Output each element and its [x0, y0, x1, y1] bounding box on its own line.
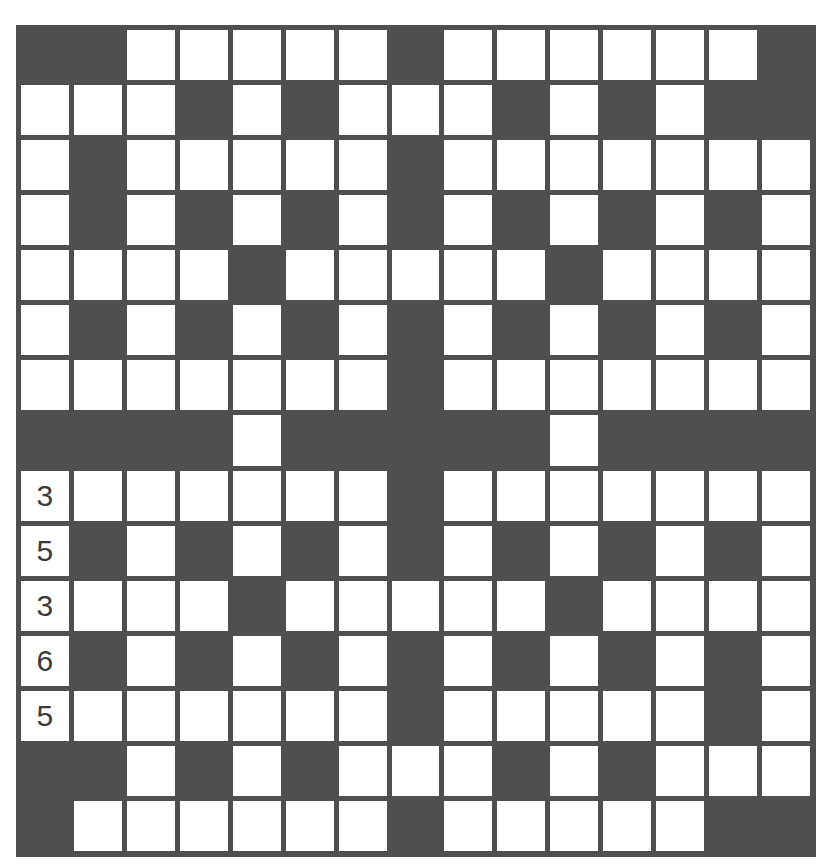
grid-cell[interactable] [125, 248, 178, 303]
grid-cell[interactable] [760, 524, 813, 579]
grid-cell[interactable] [72, 248, 125, 303]
grid-cell[interactable] [654, 744, 707, 799]
grid-cell[interactable] [601, 138, 654, 193]
grid-cell[interactable] [231, 303, 284, 358]
grid-cell[interactable] [337, 193, 390, 248]
grid-cell[interactable] [442, 799, 495, 854]
grid-cell[interactable] [284, 689, 337, 744]
grid-cell[interactable] [178, 248, 231, 303]
grid-cell[interactable] [337, 138, 390, 193]
grid-cell[interactable] [654, 469, 707, 524]
grid-cell[interactable] [178, 28, 231, 83]
grid-cell[interactable] [442, 303, 495, 358]
grid-cell[interactable] [548, 744, 601, 799]
grid-cell[interactable] [442, 358, 495, 413]
grid-cell[interactable] [654, 799, 707, 854]
grid-cell[interactable] [337, 303, 390, 358]
grid-cell[interactable] [125, 634, 178, 689]
grid-cell[interactable] [548, 83, 601, 138]
grid-cell[interactable] [337, 524, 390, 579]
grid-cell[interactable] [19, 248, 72, 303]
grid-cell[interactable] [178, 799, 231, 854]
grid-cell[interactable] [442, 689, 495, 744]
grid-cell[interactable] [337, 358, 390, 413]
grid-cell[interactable] [72, 469, 125, 524]
grid-cell[interactable] [548, 799, 601, 854]
grid-cell[interactable] [337, 634, 390, 689]
grid-cell[interactable] [760, 248, 813, 303]
grid-cell[interactable] [72, 579, 125, 634]
grid-cell[interactable] [125, 469, 178, 524]
grid-cell[interactable] [337, 579, 390, 634]
grid-cell[interactable]: 5 [19, 689, 72, 744]
grid-cell[interactable] [601, 799, 654, 854]
grid-cell[interactable] [654, 248, 707, 303]
grid-cell[interactable]: 3 [19, 469, 72, 524]
grid-cell[interactable] [548, 524, 601, 579]
grid-cell[interactable] [760, 689, 813, 744]
grid-cell[interactable] [442, 524, 495, 579]
grid-cell[interactable] [548, 193, 601, 248]
grid-cell[interactable] [125, 799, 178, 854]
grid-cell[interactable] [337, 744, 390, 799]
grid-cell[interactable] [19, 83, 72, 138]
grid-cell[interactable] [707, 28, 760, 83]
grid-cell[interactable] [707, 744, 760, 799]
grid-cell[interactable] [654, 28, 707, 83]
grid-cell[interactable] [442, 193, 495, 248]
grid-cell[interactable]: 5 [19, 524, 72, 579]
grid-cell[interactable] [442, 634, 495, 689]
grid-cell[interactable] [337, 28, 390, 83]
grid-cell[interactable] [337, 799, 390, 854]
grid-cell[interactable] [601, 579, 654, 634]
grid-cell[interactable] [548, 358, 601, 413]
grid-cell[interactable] [707, 469, 760, 524]
grid-cell[interactable] [442, 28, 495, 83]
grid-cell[interactable] [284, 799, 337, 854]
grid-cell[interactable] [548, 469, 601, 524]
grid-cell[interactable] [231, 469, 284, 524]
grid-cell[interactable]: 6 [19, 634, 72, 689]
grid-cell[interactable] [654, 524, 707, 579]
grid-cell[interactable] [125, 303, 178, 358]
grid-cell[interactable] [495, 358, 548, 413]
grid-cell[interactable] [284, 469, 337, 524]
grid-cell[interactable] [337, 83, 390, 138]
grid-cell[interactable] [284, 248, 337, 303]
grid-cell[interactable] [654, 193, 707, 248]
grid-cell[interactable] [337, 469, 390, 524]
grid-cell[interactable]: 3 [19, 579, 72, 634]
grid-cell[interactable] [707, 579, 760, 634]
grid-cell[interactable] [495, 579, 548, 634]
grid-cell[interactable] [654, 579, 707, 634]
grid-cell[interactable] [390, 744, 443, 799]
grid-cell[interactable] [231, 524, 284, 579]
grid-cell[interactable] [231, 799, 284, 854]
grid-cell[interactable] [231, 83, 284, 138]
grid-cell[interactable] [125, 579, 178, 634]
grid-cell[interactable] [760, 358, 813, 413]
grid-cell[interactable] [284, 358, 337, 413]
grid-cell[interactable] [654, 83, 707, 138]
grid-cell[interactable] [178, 689, 231, 744]
grid-cell[interactable] [72, 689, 125, 744]
grid-cell[interactable] [495, 799, 548, 854]
grid-cell[interactable] [495, 138, 548, 193]
grid-cell[interactable] [548, 28, 601, 83]
grid-cell[interactable] [284, 579, 337, 634]
grid-cell[interactable] [548, 303, 601, 358]
grid-cell[interactable] [231, 689, 284, 744]
grid-cell[interactable] [125, 28, 178, 83]
grid-cell[interactable] [760, 744, 813, 799]
grid-cell[interactable] [707, 358, 760, 413]
grid-cell[interactable] [707, 138, 760, 193]
grid-cell[interactable] [125, 524, 178, 579]
grid-cell[interactable] [760, 634, 813, 689]
grid-cell[interactable] [72, 358, 125, 413]
grid-cell[interactable] [760, 303, 813, 358]
grid-cell[interactable] [654, 303, 707, 358]
grid-cell[interactable] [390, 83, 443, 138]
grid-cell[interactable] [654, 689, 707, 744]
grid-cell[interactable] [601, 358, 654, 413]
grid-cell[interactable] [548, 413, 601, 468]
